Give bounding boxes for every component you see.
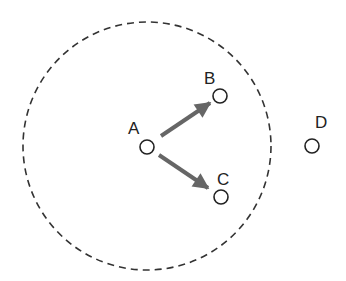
node-d-circle: [305, 139, 319, 153]
node-b-label: B: [204, 69, 215, 88]
node-d: D: [305, 113, 327, 153]
arrow-a-to-b: [161, 103, 210, 136]
node-c-label: C: [217, 170, 229, 189]
node-b: B: [204, 69, 227, 103]
node-a-circle: [140, 140, 154, 154]
node-b-circle: [213, 89, 227, 103]
node-c: C: [214, 170, 229, 204]
node-a: A: [128, 119, 154, 154]
diagram-canvas: A B C D: [0, 0, 346, 281]
node-a-label: A: [128, 119, 140, 138]
arrow-a-to-c: [159, 155, 208, 188]
node-c-circle: [214, 190, 228, 204]
node-d-label: D: [315, 113, 327, 132]
